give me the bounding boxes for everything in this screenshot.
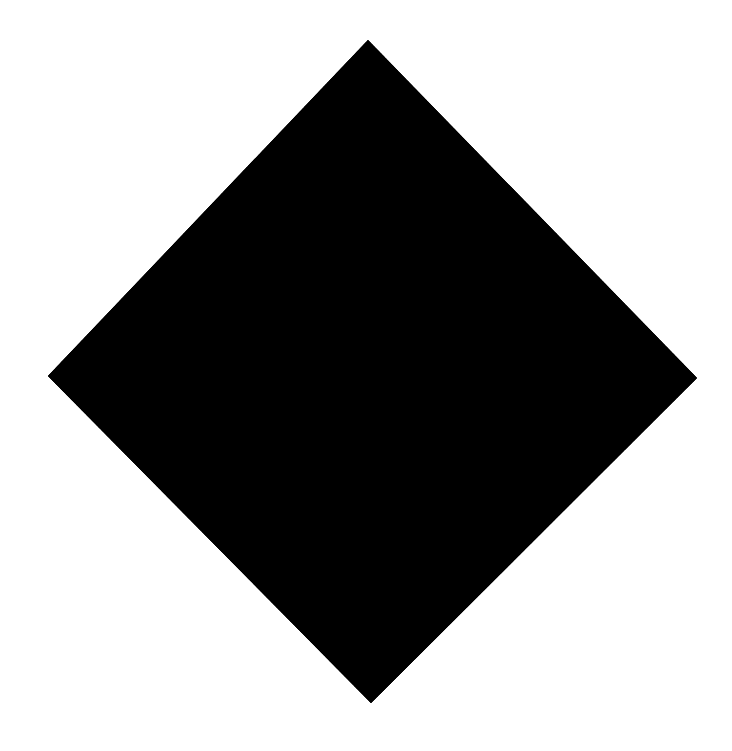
artwork-svg bbox=[0, 0, 732, 751]
artwork-canvas: Untitled (Black Diamond) Abstract compos… bbox=[0, 0, 732, 751]
